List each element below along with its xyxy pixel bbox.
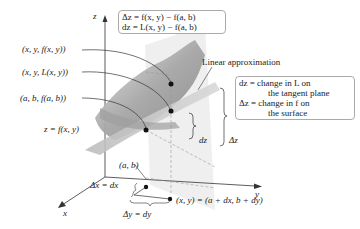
point-surface: [169, 82, 174, 87]
Dz-brace: [220, 88, 227, 146]
label-point-base: (a, b, f(a, b)): [20, 93, 66, 103]
label-dz: dz: [199, 135, 208, 145]
top-box-line2: dz = L(x, y) − f(a, b): [122, 22, 222, 32]
x-axis-label: x: [62, 208, 67, 218]
label-point-plane: (x, y, L(x, y)): [22, 67, 68, 77]
z-axis-arrow-icon: [103, 15, 108, 22]
point-plane: [169, 109, 174, 114]
right-box-line1: dz = change in L on: [239, 78, 351, 88]
top-box-line1: Δz = f(x, y) − f(a, b): [122, 12, 222, 22]
label-delta-x: Δx = dx: [89, 180, 118, 190]
z-axis-label: z: [92, 11, 97, 21]
label-Dz: Δz: [228, 135, 238, 145]
label-ab: (a, b): [119, 160, 139, 170]
right-box-line2: the tangent plane: [239, 88, 351, 98]
point-base: [144, 128, 149, 133]
label-linear-approx: Linear approximation: [202, 57, 281, 67]
label-xy-point: (x, y) = (a + dx, b + dy): [176, 195, 263, 205]
label-point-surface: (x, y, f(x, y)): [22, 44, 65, 54]
x-axis-arrow-icon: [58, 201, 66, 208]
label-surface: z = f(x, y): [43, 124, 79, 134]
right-box-line4: the surface: [239, 108, 351, 118]
dy-brace: [130, 200, 170, 206]
definition-box-top: Δz = f(x, y) − f(a, b) dz = L(x, y) − f(…: [118, 10, 226, 34]
definition-box-right: dz = change in L on the tangent plane Δz…: [235, 76, 355, 120]
right-box-line3: Δz = change in f on: [239, 98, 351, 108]
label-delta-y: Δy = dy: [122, 209, 151, 219]
